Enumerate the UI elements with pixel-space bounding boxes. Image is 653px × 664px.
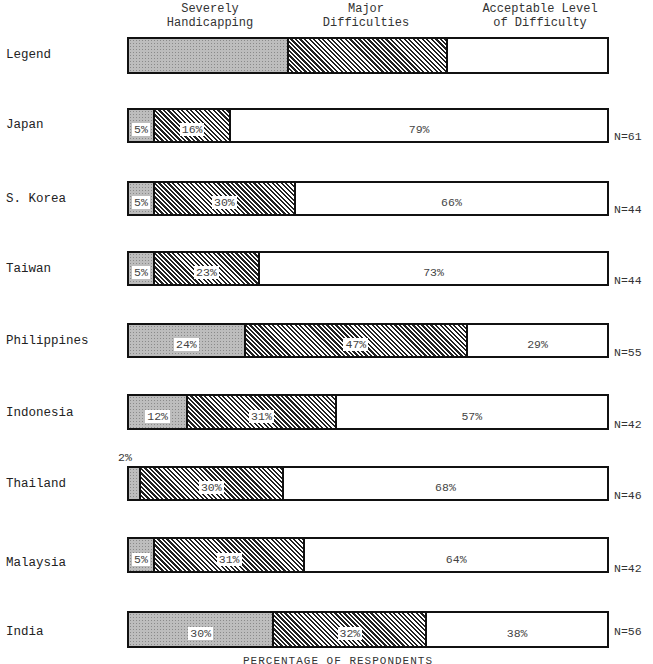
value-label: 5%	[132, 196, 150, 209]
segment-acceptable: 73%	[258, 253, 607, 284]
legend-bar	[127, 37, 609, 74]
segment-acceptable: 66%	[294, 183, 607, 214]
segment-acceptable: 29%	[466, 325, 607, 356]
value-label-outside: 2%	[118, 451, 132, 464]
country-label: S. Korea	[6, 192, 66, 206]
value-label: 5%	[132, 553, 150, 566]
n-label: N=55	[614, 346, 642, 359]
value-label: 79%	[407, 123, 432, 136]
segment-acceptable: 64%	[303, 539, 607, 571]
value-label: 16%	[180, 123, 205, 136]
n-label: N=42	[614, 418, 642, 431]
segment-major: 30%	[139, 468, 282, 499]
value-label: 73%	[421, 266, 446, 279]
bar-taiwan: 5% 23% 73%	[127, 251, 609, 286]
segment-severe: 5%	[129, 110, 153, 141]
legend-header-severe: Severely Handicapping	[150, 2, 270, 30]
bar-india: 30% 32% 38%	[127, 611, 609, 648]
n-label: N=56	[614, 625, 642, 638]
value-label: 31%	[217, 553, 242, 566]
legend-header-line: Major	[306, 2, 426, 16]
segment-acceptable: 79%	[229, 110, 607, 141]
segment-acceptable: 38%	[425, 613, 607, 646]
x-axis-label: PERCENTAGE OF RESPONDENTS	[243, 655, 433, 664]
legend-header-line: Acceptable Level	[460, 2, 620, 16]
value-label: 66%	[439, 196, 464, 209]
legend-swatch-major	[287, 39, 447, 72]
value-label: 31%	[249, 410, 274, 423]
country-label: Taiwan	[6, 262, 51, 276]
segment-major: 23%	[153, 253, 258, 284]
segment-severe: 30%	[129, 613, 272, 646]
n-label: N=44	[614, 203, 642, 216]
bar-japan: 5% 16% 79%	[127, 108, 609, 143]
legend-header-line: Handicapping	[150, 16, 270, 30]
value-label: 47%	[343, 338, 368, 351]
bar-malaysia: 5% 31% 64%	[127, 537, 609, 573]
segment-severe: 5%	[129, 539, 153, 571]
segment-major: 16%	[153, 110, 229, 141]
segment-severe: 5%	[129, 253, 153, 284]
value-label: 64%	[444, 553, 469, 566]
value-label: 12%	[145, 410, 170, 423]
n-label: N=44	[614, 274, 642, 287]
value-label: 57%	[459, 410, 484, 423]
segment-major: 31%	[186, 396, 334, 428]
segment-major: 32%	[272, 613, 425, 646]
segment-acceptable: 68%	[282, 468, 607, 499]
legend-header-acceptable: Acceptable Level of Difficulty	[460, 2, 620, 30]
value-label: 30%	[212, 196, 237, 209]
segment-severe	[129, 468, 139, 499]
segment-acceptable: 57%	[335, 396, 607, 428]
legend-header-line: of Difficulty	[460, 16, 620, 30]
country-label: Indonesia	[6, 406, 74, 420]
legend-row-label: Legend	[6, 48, 51, 62]
segment-major: 47%	[244, 325, 466, 356]
legend-header-line: Difficulties	[306, 16, 426, 30]
country-label: Japan	[6, 118, 44, 132]
value-label: 68%	[433, 481, 458, 494]
value-label: 30%	[188, 627, 213, 640]
segment-severe: 24%	[129, 325, 244, 356]
legend-swatch-acceptable	[446, 39, 607, 72]
country-label: Malaysia	[6, 556, 66, 570]
n-label: N=61	[614, 130, 642, 143]
value-label: 5%	[132, 266, 150, 279]
country-label: Thailand	[6, 477, 66, 491]
value-label: 24%	[174, 338, 199, 351]
n-label: N=42	[614, 562, 642, 575]
segment-major: 30%	[153, 183, 294, 214]
legend-header-major: Major Difficulties	[306, 2, 426, 30]
value-label: 30%	[199, 481, 224, 494]
value-label: 5%	[132, 123, 150, 136]
bar-thailand: 30% 68%	[127, 466, 609, 501]
segment-severe: 5%	[129, 183, 153, 214]
bar-indonesia: 12% 31% 57%	[127, 394, 609, 430]
value-label: 29%	[525, 338, 550, 351]
country-label: Philippines	[6, 334, 89, 348]
n-label: N=46	[614, 489, 642, 502]
segment-severe: 12%	[129, 396, 186, 428]
legend-swatch-severe	[129, 39, 287, 72]
segment-major: 31%	[153, 539, 304, 571]
value-label: 38%	[505, 627, 530, 640]
country-label: India	[6, 625, 44, 639]
bar-philippines: 24% 47% 29%	[127, 323, 609, 358]
bar-s-korea: 5% 30% 66%	[127, 181, 609, 216]
value-label: 32%	[338, 627, 363, 640]
value-label: 23%	[194, 266, 219, 279]
legend-header-line: Severely	[150, 2, 270, 16]
